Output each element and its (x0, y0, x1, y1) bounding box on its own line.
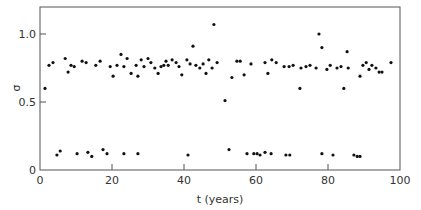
data-point (207, 58, 210, 61)
data-point (189, 62, 192, 65)
data-point (258, 153, 261, 156)
data-point (256, 152, 259, 155)
data-point (342, 87, 345, 90)
data-point (331, 153, 334, 156)
data-point (358, 75, 361, 78)
data-point (81, 60, 84, 63)
data-point (211, 66, 214, 69)
data-point (69, 64, 72, 67)
data-point (374, 66, 377, 69)
data-point (59, 149, 62, 152)
x-tick-label: 20 (105, 174, 119, 187)
data-point (109, 65, 112, 68)
data-point (119, 53, 122, 56)
data-point (94, 64, 97, 67)
data-point (335, 66, 338, 69)
data-point (389, 61, 392, 64)
data-points (43, 23, 392, 158)
data-point (55, 153, 58, 156)
data-point (171, 58, 174, 61)
data-point (101, 148, 104, 151)
data-point (67, 71, 70, 74)
x-axis-label: t (years) (197, 193, 244, 206)
plot-frame (40, 7, 400, 170)
data-point (146, 57, 149, 60)
data-point (223, 99, 226, 102)
data-point (227, 148, 230, 151)
data-point (177, 65, 180, 68)
data-point (361, 64, 364, 67)
data-point (140, 58, 143, 61)
data-point (299, 66, 302, 69)
y-tick-label: 1.0 (19, 28, 37, 41)
data-point (356, 155, 359, 158)
data-point (198, 66, 201, 69)
data-point (180, 73, 183, 76)
data-point (288, 65, 291, 68)
data-point (47, 64, 50, 67)
data-point (136, 75, 139, 78)
data-point (275, 61, 278, 64)
data-point (308, 64, 311, 67)
data-point (315, 66, 318, 69)
data-point (204, 72, 207, 75)
data-point (339, 65, 342, 68)
data-point (298, 87, 301, 90)
data-point (153, 66, 156, 69)
data-point (370, 64, 373, 67)
data-point (186, 153, 189, 156)
data-point (64, 57, 67, 60)
y-tick-label: 0 (29, 164, 36, 177)
data-point (76, 152, 79, 155)
data-point (283, 65, 286, 68)
data-point (243, 73, 246, 76)
data-point (86, 151, 89, 154)
data-point (136, 152, 139, 155)
data-point (130, 72, 133, 75)
data-point (90, 155, 93, 158)
data-point (194, 64, 197, 67)
x-tick-label: 100 (390, 174, 411, 187)
data-point (378, 71, 381, 74)
plot-border (40, 7, 400, 170)
x-tick-label: 80 (321, 174, 335, 187)
data-point (126, 57, 129, 60)
data-point (347, 66, 350, 69)
y-axis: 00.51.0 (19, 28, 47, 177)
data-point (122, 65, 125, 68)
data-point (263, 151, 266, 154)
data-point (245, 152, 248, 155)
data-point (266, 72, 269, 75)
data-point (288, 153, 291, 156)
data-point (270, 58, 273, 61)
data-point (320, 46, 323, 49)
data-point (358, 155, 361, 158)
y-tick-label: 0.5 (19, 96, 37, 109)
data-point (99, 60, 102, 63)
data-point (249, 62, 252, 65)
data-point (142, 65, 145, 68)
data-point (325, 68, 328, 71)
data-point (212, 23, 215, 26)
data-point (252, 152, 255, 155)
data-point (270, 152, 273, 155)
data-point (43, 87, 46, 90)
y-axis-label: σ (10, 84, 23, 91)
data-point (73, 65, 76, 68)
data-point (115, 64, 118, 67)
x-tick-label: 40 (177, 174, 191, 187)
data-point (159, 65, 162, 68)
x-tick-label: 0 (37, 174, 44, 187)
data-point (380, 71, 383, 74)
data-point (85, 61, 88, 64)
data-point (51, 61, 54, 64)
data-point (191, 45, 194, 48)
data-point (320, 152, 323, 155)
data-point (230, 76, 233, 79)
data-point (263, 61, 266, 64)
data-point (317, 32, 320, 35)
data-point (112, 75, 115, 78)
data-point (164, 60, 167, 63)
data-point (122, 152, 125, 155)
data-point (162, 64, 165, 67)
